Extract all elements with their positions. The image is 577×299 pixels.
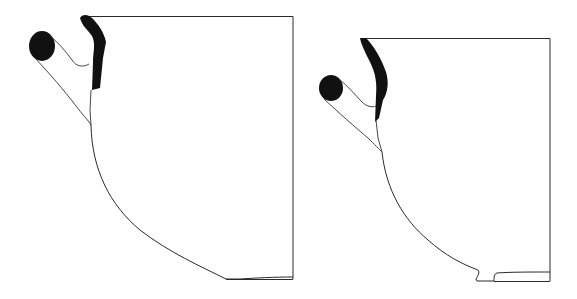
vessel-2 xyxy=(319,38,550,282)
vessel-1-handle-lower xyxy=(35,58,91,125)
vessel-1-handle-upper xyxy=(50,36,89,66)
vessel-1-handle-section xyxy=(29,31,55,61)
vessel-1-base-top xyxy=(226,277,293,279)
vessel-2-wall-section xyxy=(360,38,388,122)
vessel-1-wall-section xyxy=(80,15,106,90)
pottery-profiles xyxy=(0,0,577,299)
vessel-2-foot-ring xyxy=(476,270,550,281)
vessel-1 xyxy=(29,15,293,280)
vessel-1-neck xyxy=(90,90,91,125)
vessel-2-handle-upper xyxy=(339,79,376,107)
vessel-1-body-curve xyxy=(91,125,226,279)
vessel-2-body-curve xyxy=(382,152,478,270)
figure-canvas xyxy=(0,0,577,299)
